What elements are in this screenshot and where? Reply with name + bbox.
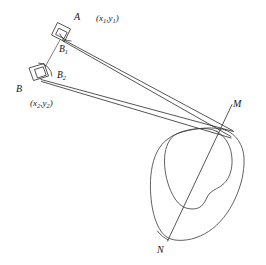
- label-coordinates-b: (x2,y2): [30, 99, 53, 109]
- label-station-a: A: [74, 12, 80, 22]
- label-angle-b2-subscript: 2: [63, 74, 66, 81]
- label-point-n: N: [157, 245, 164, 255]
- inner-contour: [165, 128, 233, 209]
- sightline-a-2: [63, 41, 231, 137]
- line-m-n: [168, 105, 233, 242]
- surveying-diagram: A B B1 B2 (x1,y1) (x2,y2) M N: [0, 0, 266, 265]
- outer-contour: [150, 128, 244, 240]
- sightline-b-2: [42, 82, 232, 139]
- sightline-a-1: [63, 39, 233, 130]
- label-point-m: M: [233, 99, 241, 109]
- diagram-canvas: [0, 0, 266, 265]
- contour-tail-n: [158, 231, 169, 240]
- label-angle-b1-subscript: 1: [65, 48, 68, 55]
- label-angle-b1: B1: [59, 45, 68, 55]
- label-station-b: B: [16, 84, 22, 94]
- label-angle-b2: B2: [57, 71, 66, 81]
- sightline-b-1: [41, 80, 234, 132]
- label-coordinates-a: (x1,y1): [96, 14, 119, 24]
- coord-a-close-paren: ): [116, 13, 119, 23]
- coord-b-close-paren: ): [50, 98, 53, 108]
